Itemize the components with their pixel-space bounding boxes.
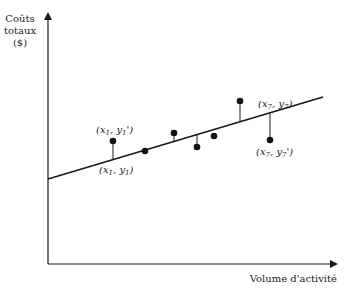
data-point-1: [110, 138, 117, 145]
y-axis-title-line3: ($): [13, 37, 27, 48]
label-x7-y7-prime: (x7, y7'): [256, 146, 293, 159]
residuals: [113, 101, 270, 160]
label-x1-y1: (x1, y1): [99, 164, 134, 177]
x-axis-title: Volume d'activité: [249, 273, 337, 284]
data-point-4: [194, 144, 201, 151]
y-axis-title-line2: totaux: [4, 25, 36, 36]
data-point-7: [267, 137, 274, 144]
label-x1-y1-prime: (x1, y1'): [96, 124, 133, 137]
y-axis-title-line1: Coûts: [5, 13, 34, 24]
data-point-3: [171, 130, 178, 137]
regression-line: [48, 97, 323, 179]
label-x7-y7: (x7, y7): [258, 98, 293, 111]
regression-diagram: Coûts totaux ($) Volume d'activité (x1, …: [0, 0, 346, 292]
data-point-2: [142, 148, 149, 155]
data-point-5: [211, 133, 218, 140]
data-point-6: [237, 98, 244, 105]
data-points: [110, 98, 274, 155]
